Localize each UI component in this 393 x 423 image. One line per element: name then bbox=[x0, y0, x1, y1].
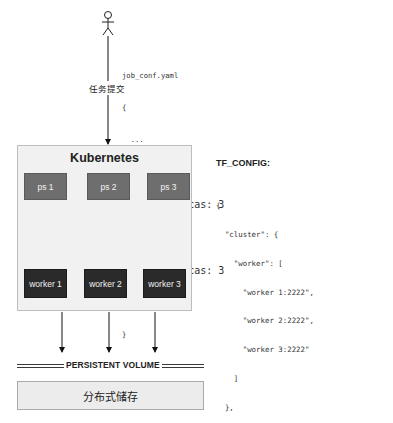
tf-config-line: { bbox=[216, 201, 393, 211]
ps-node-2: ps 2 bbox=[87, 173, 130, 200]
kubernetes-title: Kubernetes bbox=[17, 151, 192, 165]
stick-figure-icon bbox=[102, 12, 114, 36]
job-conf-line: { bbox=[122, 103, 224, 114]
job-conf-line: ... bbox=[122, 135, 224, 146]
tf-config-line: "worker": [ bbox=[216, 259, 393, 269]
tf-config-block: { "cluster": { "worker": [ "worker 1:222… bbox=[216, 182, 393, 423]
tf-config-line: }, bbox=[216, 403, 393, 413]
submit-label: 任务提交 bbox=[89, 81, 125, 95]
distributed-storage-label: 分布式储存 bbox=[83, 388, 138, 404]
persistent-volume-label: PERSISTENT VOLUME bbox=[64, 360, 162, 370]
ps-node-3: ps 3 bbox=[147, 173, 190, 200]
tf-config-line: ] bbox=[216, 374, 393, 384]
tf-config-line: "worker 2:2222", bbox=[216, 316, 393, 326]
ps-node-1: ps 1 bbox=[24, 173, 67, 200]
distributed-storage: 分布式储存 bbox=[17, 381, 204, 410]
worker-node-1: worker 1 bbox=[24, 269, 67, 298]
job-conf-filename: job_conf.yaml bbox=[122, 71, 224, 82]
tf-config-line: "worker 3:2222" bbox=[216, 345, 393, 355]
tf-config-line: "worker 1:2222", bbox=[216, 288, 393, 298]
worker-node-3: worker 3 bbox=[143, 269, 186, 298]
tf-config-line: "cluster": { bbox=[216, 230, 393, 240]
worker-node-2: worker 2 bbox=[84, 269, 127, 298]
tf-config-title: TF_CONFIG: bbox=[216, 158, 270, 168]
job-conf-line: } bbox=[122, 330, 224, 341]
